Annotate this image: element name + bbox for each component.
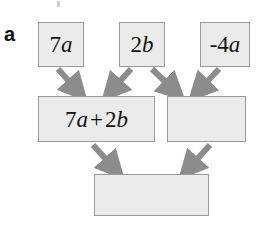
diagram-canvas: a 7a 2b -4a 7a+2b	[0, 0, 264, 228]
node-term-7a-label: 7a	[50, 33, 73, 56]
variable-a: a	[61, 32, 73, 57]
sum-operator: +	[88, 107, 105, 132]
node-result-empty-box[interactable]	[94, 174, 209, 216]
sum-left-term-text: 7a	[65, 107, 88, 132]
node-term-2b-label: 2b	[131, 33, 154, 56]
arrow-middle-empty-to-result	[189, 145, 210, 168]
node-sum-7a-2b[interactable]: 7a+2b	[38, 96, 155, 142]
node-term-7a[interactable]: 7a	[38, 22, 84, 67]
node-middle-empty-box[interactable]	[167, 96, 246, 142]
coefficient-minus-4: -4	[210, 32, 229, 57]
node-term-2b[interactable]: 2b	[119, 22, 165, 67]
arrow-minus4a-to-middle-empty	[199, 69, 219, 90]
arrow-2b-to-middle-empty	[152, 69, 174, 90]
arrow-2b-to-sum	[112, 69, 131, 90]
sum-left-term: 7a	[65, 107, 88, 132]
sum-right-term: 2b	[105, 107, 128, 132]
node-term-minus-4a-label: -4a	[210, 33, 241, 56]
variable-b: b	[142, 32, 154, 57]
node-term-minus-4a[interactable]: -4a	[200, 22, 250, 67]
arrow-sum-to-result	[93, 145, 114, 168]
coefficient-2: 2	[131, 32, 143, 57]
panel-label-a: a	[4, 24, 15, 44]
variable-a-2: a	[229, 32, 241, 57]
node-sum-7a-2b-label: 7a+2b	[65, 108, 128, 131]
coefficient-7: 7	[50, 32, 62, 57]
sum-right-term-text: 2b	[105, 107, 128, 132]
page-artifact-speck	[57, 1, 60, 7]
arrow-7a-to-sum	[58, 69, 77, 90]
